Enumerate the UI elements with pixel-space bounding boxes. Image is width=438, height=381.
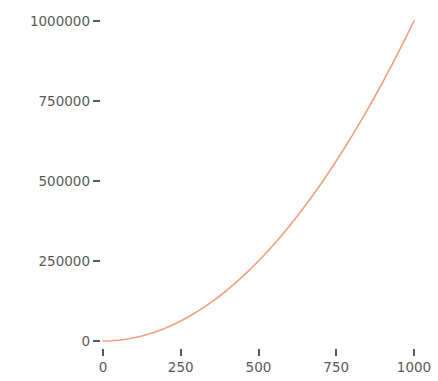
y-tick-mark: [93, 100, 100, 102]
x-tick-label: 1000: [374, 358, 438, 376]
y-tick-mark: [93, 20, 100, 22]
y-axis: 02500005000007500001000000: [0, 0, 103, 381]
x-tick-label: 250: [141, 358, 221, 376]
x-tick-mark: [258, 349, 260, 356]
x-tick-label: 500: [219, 358, 299, 376]
x-axis: 02505007501000: [0, 341, 438, 381]
series-line-0: [103, 21, 414, 341]
x-tick-mark: [413, 349, 415, 356]
plot-svg: [103, 21, 414, 341]
chart-container: 02500005000007500001000000 0250500750100…: [0, 0, 438, 381]
y-tick-label: 1000000: [30, 12, 90, 30]
x-tick-label: 750: [296, 358, 376, 376]
y-tick-label: 500000: [38, 172, 90, 190]
x-tick-label: 0: [63, 358, 143, 376]
y-tick-label: 250000: [38, 252, 90, 270]
x-tick-mark: [180, 349, 182, 356]
y-tick-mark: [93, 180, 100, 182]
y-tick-label: 750000: [38, 92, 90, 110]
x-tick-mark: [102, 349, 104, 356]
x-tick-mark: [335, 349, 337, 356]
y-tick-mark: [93, 260, 100, 262]
plot-area: [103, 21, 414, 341]
series-layer: [103, 21, 414, 341]
